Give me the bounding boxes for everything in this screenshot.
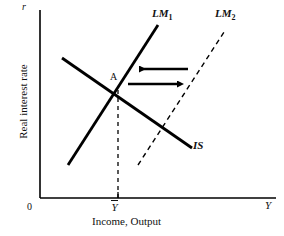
y-axis-title: Real interest rate (18, 47, 29, 157)
origin-label: 0 (27, 202, 32, 212)
lm1-label-text: LM (152, 7, 169, 19)
ybar-glyph: Y (111, 202, 118, 213)
lm2-label-subscript: 2 (232, 13, 236, 22)
lm1-curve-label: LM1 (152, 8, 173, 22)
is-lm-figure: r Y 0 Y Income, Output Real interest rat… (0, 0, 284, 236)
lm1-label-subscript: 1 (169, 13, 173, 22)
lm2-curve-label: LM2 (215, 8, 236, 22)
y-axis-symbol: r (22, 2, 26, 12)
x-axis-tick-label-ybar: Y (111, 200, 118, 213)
is-curve-label: IS (193, 140, 203, 151)
plot-canvas (0, 0, 284, 236)
equilibrium-point-label: A (110, 72, 117, 82)
x-axis-symbol: Y (265, 200, 271, 211)
lm2-curve (138, 29, 226, 165)
x-axis-title: Income, Output (92, 216, 161, 227)
lm2-label-text: LM (215, 7, 232, 19)
